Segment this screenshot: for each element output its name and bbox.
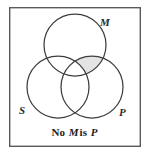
circle-label-m: M <box>100 17 110 28</box>
circle-label-p: P <box>119 107 126 118</box>
caption-term-p: P <box>90 126 99 138</box>
venn-diagram-figure: M S P No Mis P <box>0 0 150 155</box>
circle-label-s: S <box>19 105 25 116</box>
caption-word-no: No <box>52 126 65 138</box>
caption-term-m: M <box>68 126 80 138</box>
figure-caption: No Mis P <box>9 127 141 138</box>
caption-word-is: is <box>80 126 87 138</box>
